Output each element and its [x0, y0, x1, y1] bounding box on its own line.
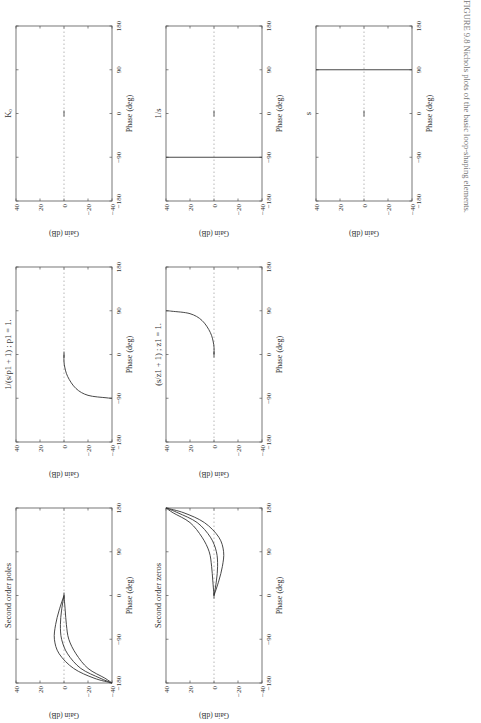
- svg-text:Phase (deg): Phase (deg): [275, 576, 284, 614]
- panel-title: 1/(s/p1 + 1) ; p1 = 1.: [3, 319, 13, 389]
- svg-text:0: 0: [211, 204, 219, 208]
- svg-text:40: 40: [313, 204, 321, 212]
- nichols-plot: Second order poles−180−9009018040200−20−…: [0, 482, 150, 723]
- panel-title: s: [303, 112, 313, 115]
- svg-text:20: 20: [187, 445, 195, 453]
- svg-text:90: 90: [115, 307, 123, 315]
- series-curve: [166, 311, 214, 355]
- svg-text:Gain (dB): Gain (dB): [48, 711, 79, 720]
- svg-text:90: 90: [115, 548, 123, 556]
- svg-text:−90: −90: [115, 392, 123, 403]
- svg-text:−20: −20: [85, 445, 93, 456]
- svg-text:180: 180: [265, 502, 273, 513]
- svg-text:180: 180: [115, 20, 123, 31]
- svg-text:−20: −20: [235, 445, 243, 456]
- svg-text:90: 90: [265, 307, 273, 315]
- svg-text:Gain (dB): Gain (dB): [348, 229, 379, 238]
- svg-text:40: 40: [163, 445, 171, 453]
- series-curve: [166, 508, 214, 596]
- svg-text:Phase (deg): Phase (deg): [275, 94, 284, 132]
- svg-text:0: 0: [265, 593, 273, 597]
- panel-ko: Kₒ−180−9009018040200−20−40Phase (deg)Gai…: [0, 0, 150, 241]
- svg-text:−20: −20: [235, 686, 243, 697]
- panel-first-order-zero: (s/z1 + 1) ; z1 = 1.−180−9009018040200−2…: [150, 241, 300, 482]
- panel-differentiator: s−180−9009018040200−20−40Phase (deg)Gain…: [300, 0, 450, 241]
- nichols-plot: Second order zeros−180−9009018040200−20−…: [150, 482, 300, 723]
- svg-text:90: 90: [265, 66, 273, 74]
- svg-text:180: 180: [265, 20, 273, 31]
- svg-text:−90: −90: [415, 151, 423, 162]
- svg-text:Gain (dB): Gain (dB): [198, 229, 229, 238]
- svg-text:−20: −20: [235, 204, 243, 215]
- svg-text:20: 20: [37, 204, 45, 212]
- svg-text:−20: −20: [85, 686, 93, 697]
- svg-text:−40: −40: [109, 686, 117, 697]
- nichols-plot: Kₒ−180−9009018040200−20−40Phase (deg)Gai…: [0, 0, 150, 241]
- svg-text:−40: −40: [109, 445, 117, 456]
- svg-text:−90: −90: [265, 392, 273, 403]
- series-curve: [64, 355, 112, 399]
- svg-text:Phase (deg): Phase (deg): [125, 576, 134, 614]
- panel-title: (s/z1 + 1) ; z1 = 1.: [153, 323, 163, 386]
- nichols-plot: 1/s−180−9009018040200−20−40Phase (deg)Ga…: [150, 0, 300, 241]
- svg-text:40: 40: [13, 686, 21, 694]
- svg-text:−40: −40: [259, 445, 267, 456]
- svg-text:−20: −20: [385, 204, 393, 215]
- svg-text:0: 0: [265, 352, 273, 356]
- svg-text:−40: −40: [259, 204, 267, 215]
- nichols-plot: (s/z1 + 1) ; z1 = 1.−180−9009018040200−2…: [150, 241, 300, 482]
- svg-text:20: 20: [37, 445, 45, 453]
- panel-title: Second order poles: [3, 563, 13, 628]
- svg-text:0: 0: [211, 686, 219, 690]
- svg-text:Phase (deg): Phase (deg): [425, 94, 434, 132]
- svg-text:180: 180: [115, 261, 123, 272]
- svg-text:40: 40: [163, 204, 171, 212]
- panel-title: 1/s: [153, 109, 163, 119]
- svg-text:−40: −40: [409, 204, 417, 215]
- svg-text:180: 180: [115, 502, 123, 513]
- svg-text:Phase (deg): Phase (deg): [125, 335, 134, 373]
- svg-text:−90: −90: [115, 151, 123, 162]
- svg-text:40: 40: [13, 445, 21, 453]
- nichols-figure: Kₒ−180−9009018040200−20−40Phase (deg)Gai…: [0, 0, 450, 723]
- panel-integrator: 1/s−180−9009018040200−20−40Phase (deg)Ga…: [150, 0, 300, 241]
- panel-second-order-poles: Second order poles−180−9009018040200−20−…: [0, 482, 150, 723]
- svg-text:20: 20: [187, 686, 195, 694]
- svg-text:0: 0: [115, 593, 123, 597]
- series-curve: [64, 596, 112, 684]
- svg-text:−90: −90: [115, 633, 123, 644]
- svg-text:−40: −40: [259, 686, 267, 697]
- panel-title: Kₒ: [3, 109, 13, 118]
- svg-text:90: 90: [415, 66, 423, 74]
- svg-text:−40: −40: [109, 204, 117, 215]
- svg-text:180: 180: [265, 261, 273, 272]
- svg-text:90: 90: [265, 548, 273, 556]
- series-curve: [60, 596, 112, 684]
- svg-text:0: 0: [61, 686, 69, 690]
- svg-text:0: 0: [415, 111, 423, 115]
- panel-second-order-zeros: Second order zeros−180−9009018040200−20−…: [150, 482, 300, 723]
- svg-text:−20: −20: [85, 204, 93, 215]
- svg-text:Phase (deg): Phase (deg): [275, 335, 284, 373]
- svg-text:Phase (deg): Phase (deg): [125, 94, 134, 132]
- svg-text:0: 0: [115, 111, 123, 115]
- svg-text:90: 90: [115, 66, 123, 74]
- svg-text:Gain (dB): Gain (dB): [198, 470, 229, 479]
- svg-text:0: 0: [361, 204, 369, 208]
- svg-text:40: 40: [13, 204, 21, 212]
- svg-text:20: 20: [37, 686, 45, 694]
- nichols-plot: 1/(s/p1 + 1) ; p1 = 1.−180−9009018040200…: [0, 241, 150, 482]
- panel-title: Second order zeros: [153, 563, 163, 628]
- svg-text:Gain (dB): Gain (dB): [48, 470, 79, 479]
- svg-text:20: 20: [337, 204, 345, 212]
- svg-text:Gain (dB): Gain (dB): [198, 711, 229, 720]
- panel-first-order-pole: 1/(s/p1 + 1) ; p1 = 1.−180−9009018040200…: [0, 241, 150, 482]
- svg-text:180: 180: [415, 20, 423, 31]
- svg-text:0: 0: [61, 445, 69, 449]
- svg-text:0: 0: [61, 204, 69, 208]
- svg-text:0: 0: [265, 111, 273, 115]
- svg-text:0: 0: [115, 352, 123, 356]
- svg-text:Gain (dB): Gain (dB): [48, 229, 79, 238]
- series-curve: [166, 508, 218, 596]
- svg-text:−90: −90: [265, 633, 273, 644]
